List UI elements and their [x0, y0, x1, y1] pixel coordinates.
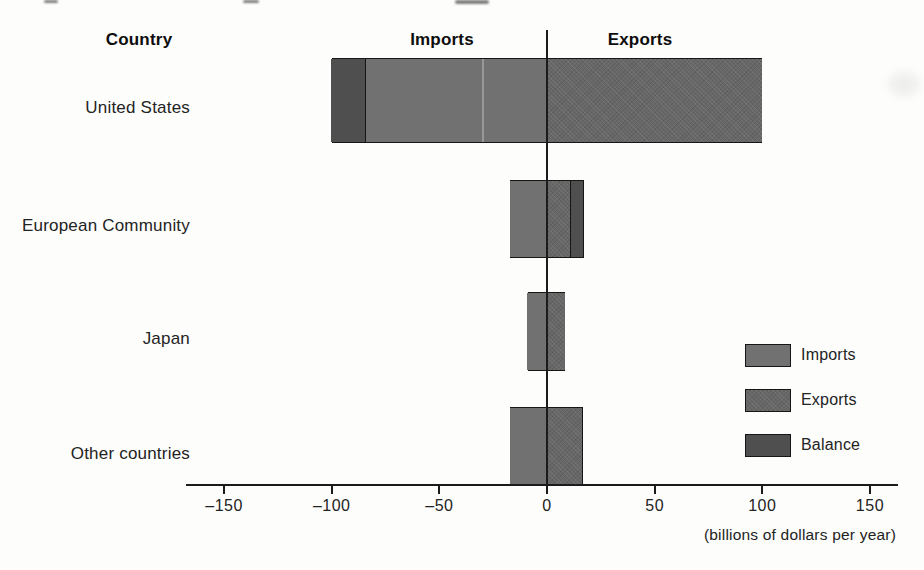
- legend-label-balance: Balance: [801, 436, 860, 456]
- bar-segment-imports: [527, 293, 546, 370]
- column-header-imports: Imports: [362, 30, 522, 50]
- zero-baseline: [546, 30, 548, 486]
- x-axis-caption: (billions of dollars per year): [594, 526, 896, 544]
- tick-label: –100: [300, 497, 364, 515]
- legend-swatch-balance: [745, 434, 791, 457]
- bar-segment-balance: [331, 59, 365, 142]
- scan-artifact: [44, 0, 58, 3]
- bar-segment-exports: [546, 408, 582, 485]
- bar-segment-exports: [546, 181, 570, 257]
- bar-segment-imports: [510, 408, 547, 485]
- scan-artifact: [455, 0, 489, 4]
- country-label-japan: Japan: [0, 329, 190, 351]
- country-label-united-states: United States: [0, 98, 190, 120]
- bar-segment-imports: [510, 181, 547, 257]
- scan-artifact: [888, 72, 920, 96]
- trade-chart-figure: Country Imports Exports United StatesEur…: [0, 0, 924, 570]
- tick-label: 0: [515, 497, 579, 515]
- scan-artifact: [482, 59, 484, 142]
- country-label-european-community: European Community: [0, 216, 190, 238]
- column-header-exports: Exports: [560, 30, 720, 50]
- tick-label: –150: [192, 497, 256, 515]
- bar-segment-exports: [546, 293, 564, 370]
- legend-swatch-exports: [745, 389, 791, 412]
- bar-segment-balance: [570, 181, 583, 257]
- tick-label: 150: [838, 497, 902, 515]
- scan-artifact: [243, 0, 259, 3]
- bar-segment-exports: [546, 59, 761, 142]
- legend-label-exports: Exports: [801, 391, 857, 411]
- country-label-other-countries: Other countries: [0, 444, 190, 466]
- x-axis-line: [186, 484, 898, 486]
- bar-segment-imports: [366, 59, 547, 142]
- column-header-country: Country: [59, 30, 219, 50]
- tick-label: 50: [623, 497, 687, 515]
- tick-label: –50: [407, 497, 471, 515]
- tick-label: 100: [730, 497, 794, 515]
- legend-swatch-imports: [745, 344, 791, 367]
- legend-label-imports: Imports: [801, 346, 856, 366]
